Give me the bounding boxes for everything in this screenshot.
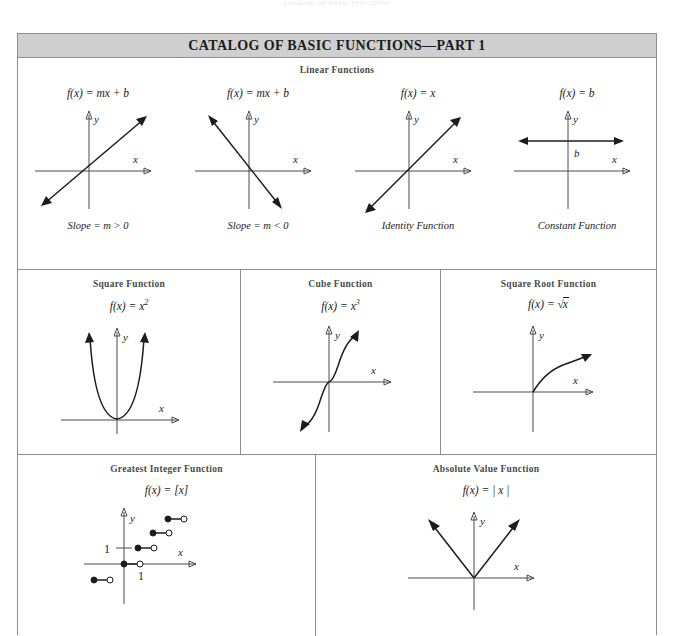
axis-label-y: y (572, 113, 578, 125)
graph-identity-line: x y (343, 99, 493, 214)
title-absolute-value-function: Absolute Value Function (433, 464, 540, 474)
axis-label-y: y (538, 329, 544, 341)
title-greatest-integer-function: Greatest Integer Function (110, 464, 223, 474)
cell-square-root-function: Square Root Function f(x) = √x x y (440, 270, 656, 454)
formula-greatest-integer: f(x) = [x] (145, 484, 189, 496)
row-power-functions: Square Function f(x) = x2 x y Cube Funct… (18, 270, 656, 455)
cell-absolute-value-function: Absolute Value Function f(x) = | x | x y (315, 455, 656, 636)
formula-square: f(x) = x2 (110, 298, 149, 312)
title-cube-function: Cube Function (308, 279, 372, 289)
graph-parabola: x y (39, 312, 219, 437)
tick-label-x-1: 1 (138, 569, 144, 583)
value-label-b: b (574, 147, 580, 159)
axis-label-y: y (413, 113, 419, 125)
caption-slope-positive: Slope = m > 0 (68, 220, 129, 231)
catalog-title-bar: CATALOG OF BASIC FUNCTIONS—PART 1 (18, 34, 656, 58)
caption-slope-negative: Slope = m < 0 (228, 220, 289, 231)
row-label-linear: Linear Functions (18, 58, 656, 75)
formula-constant: f(x) = b (559, 87, 594, 99)
page-title: CATALOG OF BASIC FUNCTIONS—PART 1 (188, 38, 485, 54)
formula-square-root: f(x) = √x (528, 298, 569, 310)
formula-absolute-value: f(x) = | x | (463, 484, 510, 496)
cell-cube-function: Cube Function f(x) = x3 x y (240, 270, 440, 454)
row-linear-functions: Linear Functions f(x) = mx + b x y Slope… (18, 58, 656, 270)
formula-cube: f(x) = x3 (321, 298, 360, 312)
cell-slope-negative: f(x) = mx + b x y Slope = m < 0 (178, 75, 338, 231)
tick-label-y-1: 1 (104, 542, 110, 556)
axis-label-x: x (572, 374, 578, 386)
axis-label-y: y (129, 512, 135, 524)
graph-cubic: x y (251, 312, 431, 437)
graph-constant-line: b x y (502, 99, 652, 214)
formula-linear-positive: f(x) = mx + b (67, 87, 129, 99)
graph-sqrt: x y (459, 310, 639, 435)
axis-label-x: x (611, 153, 617, 165)
row-step-functions: Greatest Integer Function f(x) = [x] 1 1 (18, 455, 656, 636)
running-head: CATALOG OF BASIC FUNCTIONS (0, 0, 674, 7)
axis-label-y: y (122, 331, 128, 343)
axis-label-x: x (370, 364, 376, 376)
cell-greatest-integer-function: Greatest Integer Function f(x) = [x] 1 1 (18, 455, 315, 636)
axis-label-y: y (334, 329, 340, 341)
axis-label-x: x (513, 560, 519, 572)
cell-square-function: Square Function f(x) = x2 x y (18, 270, 240, 454)
caption-identity: Identity Function (382, 220, 455, 231)
graph-absolute-value: x y (386, 498, 586, 613)
catalog-box: CATALOG OF BASIC FUNCTIONS—PART 1 Linear… (17, 33, 657, 635)
graph-line-positive-slope: x y (23, 99, 173, 214)
formula-linear-negative: f(x) = mx + b (227, 87, 289, 99)
axis-label-x: x (452, 153, 458, 165)
title-square-function: Square Function (93, 279, 165, 289)
graph-line-negative-slope: x y (183, 99, 333, 214)
cell-constant-function: f(x) = b b x y Constant Function (498, 75, 656, 231)
axis-label-y: y (479, 515, 485, 527)
cell-identity-function: f(x) = x x y Identity Function (338, 75, 498, 231)
cell-slope-positive: f(x) = mx + b x y Slope = m > 0 (18, 75, 178, 231)
graph-step: 1 1 x (72, 498, 262, 613)
axis-label-x: x (132, 153, 138, 165)
title-square-root-function: Square Root Function (501, 279, 597, 289)
caption-constant: Constant Function (538, 220, 616, 231)
axis-label-y: y (93, 113, 99, 125)
axis-label-x: x (177, 546, 183, 558)
axis-label-y: y (253, 113, 259, 125)
axis-label-x: x (292, 153, 298, 165)
axis-label-x: x (158, 402, 164, 414)
formula-identity: f(x) = x (401, 87, 436, 99)
